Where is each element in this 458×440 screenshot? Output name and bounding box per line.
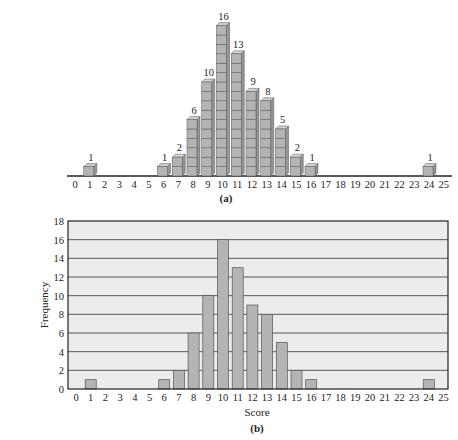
x-tick-label: 9 [205, 179, 210, 190]
unit-cube [231, 73, 241, 82]
x-tick-label: 18 [335, 179, 346, 190]
y-tick-label: 6 [59, 328, 64, 339]
unit-cube [261, 157, 271, 166]
unit-cube [276, 129, 286, 138]
unit-cube [261, 148, 271, 157]
unit-cube [290, 157, 300, 166]
unit-cube [231, 120, 241, 129]
unit-cube [246, 148, 256, 157]
unit-cube [231, 91, 241, 100]
unit-cube [246, 167, 256, 176]
x-tick-label: 10 [217, 179, 228, 190]
x-tick-label: 22 [394, 179, 405, 190]
unit-cube [217, 148, 227, 157]
unit-cube [217, 54, 227, 63]
y-tick-label: 12 [54, 272, 65, 283]
y-tick-label: 18 [54, 216, 65, 227]
unit-cube [202, 167, 212, 176]
x-tick-label: 23 [409, 392, 420, 403]
unit-cube [84, 167, 94, 176]
x-tick-label: 6 [162, 392, 167, 403]
unit-cube [246, 101, 256, 110]
unit-cube-bar: 16 [217, 11, 230, 176]
x-axis-label: Score [244, 406, 269, 418]
unit-cube [172, 167, 182, 176]
unit-cube [231, 148, 241, 157]
histogram-bar [218, 240, 229, 389]
unit-cube-bar: 9 [246, 76, 259, 176]
unit-cube [231, 157, 241, 166]
x-tick-label: 6 [161, 179, 166, 190]
unit-cube [202, 82, 212, 91]
x-tick-label: 21 [380, 179, 391, 190]
x-tick-label: 18 [335, 392, 346, 403]
x-tick-label: 11 [232, 179, 242, 190]
unit-cube [202, 110, 212, 119]
y-tick-label: 16 [54, 235, 65, 246]
histogram-bar [423, 380, 434, 389]
bar-data-label: 1 [162, 152, 167, 163]
x-tick-label: 19 [350, 392, 361, 403]
x-tick-label: 15 [291, 179, 302, 190]
x-tick-label: 20 [365, 179, 376, 190]
histogram-bar [203, 296, 214, 389]
unit-cube-bar: 1 [158, 152, 171, 176]
panel-a-caption: (a) [220, 192, 233, 205]
unit-cube [231, 110, 241, 119]
chart-canvas: 0123456789101112131415161718192021222324… [0, 0, 458, 440]
unit-cube [261, 129, 271, 138]
unit-cube-bar: 2 [172, 142, 185, 176]
y-tick-label: 14 [54, 253, 65, 264]
unit-cube [246, 157, 256, 166]
x-tick-label: 4 [132, 392, 138, 403]
bar-data-label: 10 [204, 67, 215, 78]
bar-side-face [271, 98, 274, 176]
bar-data-label: 9 [250, 76, 255, 87]
x-tick-label: 15 [291, 392, 302, 403]
histogram-bar [306, 380, 317, 389]
unit-cube [231, 82, 241, 91]
panel-b-bar-histogram: 0246810121416180123456789101112131415161… [54, 216, 449, 403]
bar-data-label: 2 [177, 142, 182, 153]
bar-data-label: 16 [218, 11, 229, 22]
unit-cube [231, 138, 241, 147]
histogram-bar [276, 342, 287, 389]
bar-side-face [212, 79, 215, 176]
unit-cube [261, 167, 271, 176]
unit-cube [217, 35, 227, 44]
unit-cube [231, 129, 241, 138]
bar-data-label: 2 [295, 142, 300, 153]
unit-cube [187, 148, 197, 157]
unit-cube [276, 148, 286, 157]
bar-data-label: 1 [309, 152, 314, 163]
x-tick-label: 20 [365, 392, 376, 403]
bar-side-face [227, 23, 230, 176]
x-tick-label: 14 [276, 179, 287, 190]
histogram-bar [262, 314, 273, 389]
x-tick-label: 12 [247, 179, 258, 190]
unit-cube [246, 91, 256, 100]
panel-b-caption: (b) [250, 422, 264, 435]
x-tick-label: 0 [73, 392, 78, 403]
unit-cube [261, 101, 271, 110]
unit-cube [187, 138, 197, 147]
unit-cube [217, 73, 227, 82]
histogram-bar [232, 268, 243, 389]
bar-data-label: 13 [233, 39, 244, 50]
x-tick-label: 23 [409, 179, 420, 190]
bar-data-label: 8 [265, 86, 270, 97]
x-tick-label: 13 [262, 179, 273, 190]
x-tick-label: 13 [262, 392, 273, 403]
unit-cube [423, 167, 433, 176]
unit-cube [202, 129, 212, 138]
unit-cube [246, 138, 256, 147]
unit-cube [290, 167, 300, 176]
unit-cube [187, 157, 197, 166]
unit-cube [246, 129, 256, 138]
bar-side-face [182, 154, 185, 176]
unit-cube [217, 82, 227, 91]
x-tick-label: 16 [306, 392, 317, 403]
unit-cube [187, 129, 197, 138]
bar-data-label: 1 [427, 152, 432, 163]
x-tick-label: 25 [439, 179, 450, 190]
